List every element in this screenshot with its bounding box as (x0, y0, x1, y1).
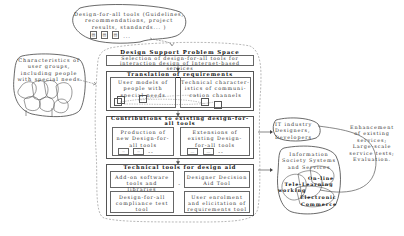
decision-aid-box: Designer Decision Aid Tool (184, 171, 250, 188)
document-icon: ▤ (112, 31, 119, 39)
tools-ellipsis: ... (122, 33, 132, 39)
new-tool-placeholder: -- (118, 148, 129, 155)
info-society-line3: and Services (280, 164, 338, 170)
compliance-test-box: Design-for-all compliance test tool (110, 191, 174, 213)
technical-tools-title: Technical tools for design aid (106, 164, 254, 170)
model-square-icon (139, 95, 147, 103)
production-line2: new Design-for- (113, 135, 173, 141)
info-society-line2: Society Systems (280, 157, 338, 163)
extensions-box: Extensions of existing Design- for-all t… (180, 127, 250, 156)
contributions-title-line2: all tools (106, 121, 254, 126)
working-label: working (278, 187, 304, 193)
contributions-title: Contributions to existing design-for- al… (106, 116, 254, 126)
compliance-line3: tool (111, 206, 173, 212)
technical-characteristics-box: Technical character- istics of communi- … (180, 77, 251, 108)
user-enrolment-box: User enrolment and elicitation of requir… (184, 191, 250, 213)
user-models-box: User models of people with special needs (110, 77, 176, 108)
extension-placeholder: ... (203, 148, 214, 155)
commerce-label: Commerce (300, 201, 338, 207)
compliance-line1: Design-for-all (111, 194, 173, 200)
enhancement-label: Enhancement of existing services; Large-… (340, 124, 404, 162)
more-dash: -- (147, 149, 155, 155)
document-icon: ▤ (101, 31, 108, 39)
it-industry-node: IT industry Designers, Developers (275, 121, 319, 140)
electronic-label: Electronic (300, 194, 336, 200)
channel-square-icon (201, 98, 209, 106)
it-industry-line3: Developers (275, 134, 319, 140)
tech-char-line2: istics of communi- (181, 85, 250, 91)
more-dash: -- (217, 149, 225, 155)
extension-placeholder: ... (187, 148, 198, 155)
decision-aid-line1: Designer Decision (185, 174, 249, 180)
user-groups-cloud: Characteristics of user groups, includin… (14, 57, 84, 83)
channel-square-icon (214, 101, 222, 109)
addon-tools-box: Add-on software tools and libraries (110, 171, 174, 188)
enrolment-line1: User enrolment (185, 194, 249, 200)
production-box: Production of new Design-for- all tools … (112, 127, 174, 156)
tools-cloud-line3: results, standards... ) (72, 24, 186, 30)
extensions-line2: existing Design- (181, 135, 249, 141)
tech-char-line3: cation channels (181, 92, 250, 98)
new-tool-placeholder: -- (133, 148, 144, 155)
enhancement-line6: Evaluation. (340, 156, 404, 162)
addon-line1: Add-on software (111, 174, 173, 180)
decision-aid-line2: Aid Tool (185, 180, 249, 186)
selection-line2: interaction design of Internet-based ser… (107, 61, 253, 71)
selection-box: Selection of design-for-all tools for in… (106, 55, 254, 66)
tools-cloud: Design-for-all tools (Guidelines, recomm… (72, 11, 186, 30)
tools-cloud-line2: recommendations, project (72, 17, 186, 23)
user-groups-line4: with special needs (14, 76, 84, 82)
enrolment-line3: requirements tool (185, 206, 249, 212)
document-icon: ▤ (90, 31, 97, 39)
info-society-node: Information Society Systems and Services (280, 151, 338, 170)
model-square-icon (117, 96, 125, 104)
tools-dash: - (175, 181, 184, 187)
